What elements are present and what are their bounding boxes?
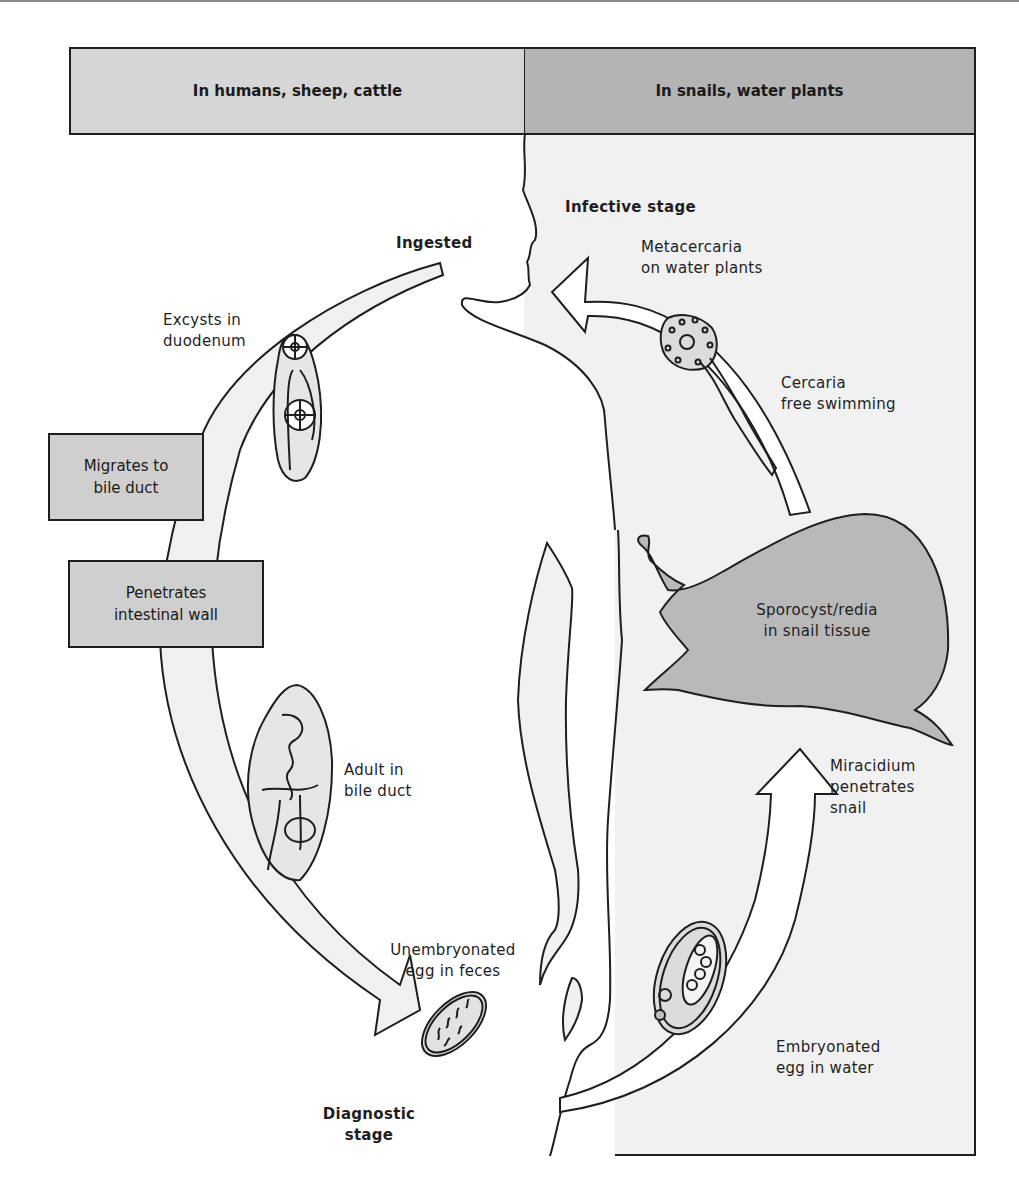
embryonated-egg-label: Embryonated egg in water — [776, 1037, 880, 1079]
migrates-line1: Migrates to — [84, 455, 169, 477]
miracidium-line3: snail — [830, 798, 916, 819]
cercaria-label: Cercaria free swimming — [781, 373, 896, 415]
embryonated-line1: Embryonated — [776, 1037, 880, 1058]
ingested-label: Ingested — [396, 233, 473, 254]
excysts-line1: Excysts in — [163, 310, 246, 331]
penetrates-line2: intestinal wall — [114, 604, 218, 626]
cercaria-line2: free swimming — [781, 394, 896, 415]
cercaria-line1: Cercaria — [781, 373, 896, 394]
migrates-line2: bile duct — [84, 477, 169, 499]
penetrates-intestinal-wall-box: Penetrates intestinal wall — [68, 560, 264, 648]
unembryonated-line1: Unembryonated — [378, 940, 528, 961]
sporocyst-label: Sporocyst/redia in snail tissue — [742, 600, 892, 642]
metacercaria-label: Metacercaria on water plants — [641, 237, 763, 279]
sporocyst-line1: Sporocyst/redia — [742, 600, 892, 621]
penetrates-line1: Penetrates — [114, 582, 218, 604]
unembryonated-egg-illustration — [411, 981, 497, 1067]
excysts-line2: duodenum — [163, 331, 246, 352]
adult-line1: Adult in — [344, 760, 412, 781]
migrates-to-bile-duct-box: Migrates to bile duct — [48, 433, 204, 521]
adult-label: Adult in bile duct — [344, 760, 412, 802]
excysted-fluke-illustration — [274, 335, 322, 481]
adult-line2: bile duct — [344, 781, 412, 802]
diagnostic-stage-label: Diagnostic stage — [314, 1104, 424, 1146]
miracidium-line2: penetrates — [830, 777, 916, 798]
unembryonated-egg-label: Unembryonated egg in feces — [378, 940, 528, 982]
sporocyst-line2: in snail tissue — [742, 621, 892, 642]
embryonated-line2: egg in water — [776, 1058, 880, 1079]
diagnostic-line1: Diagnostic — [314, 1104, 424, 1125]
metacercaria-line2: on water plants — [641, 258, 763, 279]
unembryonated-line2: egg in feces — [378, 961, 528, 982]
metacercaria-line1: Metacercaria — [641, 237, 763, 258]
excysts-label: Excysts in duodenum — [163, 310, 246, 352]
infective-stage-label: Infective stage — [565, 197, 696, 218]
diagnostic-line2: stage — [314, 1125, 424, 1146]
cercaria-illustration — [661, 315, 776, 475]
miracidium-label: Miracidium penetrates snail — [830, 756, 916, 819]
miracidium-line1: Miracidium — [830, 756, 916, 777]
